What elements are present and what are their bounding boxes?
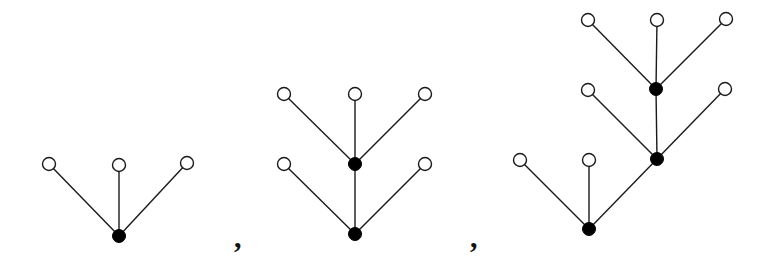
separator-comma-1: , — [234, 222, 242, 252]
leaf-node-open — [278, 158, 291, 171]
leaf-node-open — [514, 154, 527, 167]
leaf-node-open — [719, 83, 732, 96]
tree-edge — [284, 94, 355, 164]
internal-node-filled — [650, 83, 663, 96]
tree-edge — [355, 164, 425, 234]
internal-node-filled — [113, 230, 126, 243]
leaf-node-open — [583, 154, 596, 167]
leaf-node-open — [181, 157, 194, 170]
internal-node-filled — [349, 228, 362, 241]
separator-comma-2: , — [470, 222, 478, 252]
leaf-node-open — [349, 88, 362, 101]
tree-edge — [355, 94, 425, 164]
tree-edge — [49, 164, 119, 236]
tree-edge — [589, 159, 657, 229]
leaf-node-open — [582, 84, 595, 97]
leaf-node-open — [651, 14, 664, 27]
leaf-node-open — [419, 88, 432, 101]
tree-edge — [656, 20, 657, 89]
leaf-node-open — [419, 158, 432, 171]
leaf-node-open — [582, 14, 595, 27]
tree-edge — [588, 90, 657, 159]
tree-edge — [656, 19, 726, 89]
internal-node-filled — [349, 158, 362, 171]
internal-node-filled — [651, 153, 664, 166]
leaf-node-open — [113, 159, 126, 172]
edges-layer — [49, 19, 726, 236]
tree-edge — [656, 89, 657, 159]
tree-edge — [520, 160, 589, 229]
leaf-node-open — [720, 13, 733, 26]
tree-edge — [588, 20, 656, 89]
tree-edge — [657, 89, 725, 159]
tree-edge — [284, 164, 355, 234]
leaf-node-open — [278, 88, 291, 101]
tree-3-edges — [520, 19, 726, 229]
tree-edge — [119, 163, 187, 236]
tree-sequence-diagram — [0, 0, 774, 259]
tree-1-nodes — [43, 157, 194, 243]
internal-node-filled — [583, 223, 596, 236]
leaf-node-open — [43, 158, 56, 171]
tree-1-edges — [49, 163, 187, 236]
